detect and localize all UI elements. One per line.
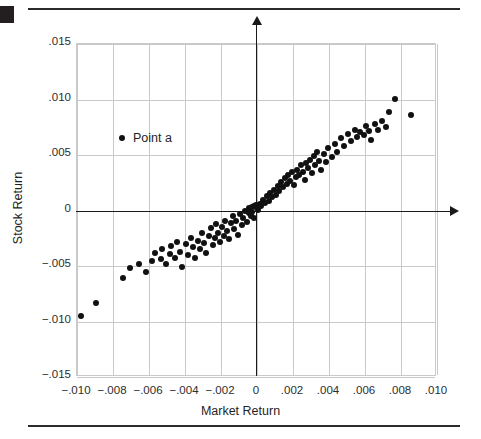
data-point bbox=[93, 300, 99, 306]
data-point bbox=[375, 127, 381, 133]
data-point bbox=[233, 218, 239, 224]
data-point bbox=[302, 177, 308, 183]
data-point bbox=[366, 128, 372, 134]
data-point bbox=[159, 246, 165, 252]
data-point bbox=[354, 134, 360, 140]
data-point bbox=[185, 252, 191, 258]
data-point bbox=[345, 131, 351, 137]
data-point bbox=[188, 235, 194, 241]
data-point bbox=[392, 96, 398, 102]
data-point bbox=[224, 228, 230, 234]
x-axis-title: Market Return bbox=[0, 404, 481, 418]
legend-marker-icon bbox=[119, 135, 125, 141]
data-point bbox=[408, 112, 414, 118]
scatter-chart-figure: .015.010.0050−.005−.010−.015 −.010−.008−… bbox=[0, 0, 481, 439]
data-point bbox=[291, 182, 297, 188]
data-point bbox=[334, 149, 340, 155]
y-axis-title: Stock Return bbox=[11, 128, 25, 288]
data-point bbox=[183, 241, 189, 247]
data-point bbox=[143, 269, 149, 275]
data-point bbox=[149, 258, 155, 264]
data-point bbox=[323, 159, 329, 165]
data-point bbox=[251, 215, 257, 221]
data-point bbox=[78, 313, 84, 319]
legend-label: Point a bbox=[133, 131, 172, 145]
data-point bbox=[341, 143, 347, 149]
data-point bbox=[316, 158, 322, 164]
data-point bbox=[338, 135, 344, 141]
data-point bbox=[217, 239, 223, 245]
data-point bbox=[199, 230, 205, 236]
data-point bbox=[177, 249, 183, 255]
data-point bbox=[163, 261, 169, 267]
data-point bbox=[332, 141, 338, 147]
data-point bbox=[368, 137, 374, 143]
data-point bbox=[314, 149, 320, 155]
chart-legend: Point a bbox=[119, 131, 172, 145]
data-point bbox=[309, 170, 315, 176]
data-point bbox=[179, 264, 185, 270]
data-point bbox=[329, 154, 335, 160]
data-point bbox=[318, 167, 324, 173]
data-point bbox=[120, 275, 126, 281]
data-point bbox=[203, 250, 209, 256]
data-point bbox=[226, 236, 232, 242]
data-point bbox=[383, 124, 389, 130]
data-point bbox=[136, 261, 142, 267]
data-points-layer bbox=[0, 0, 481, 439]
data-point bbox=[168, 243, 174, 249]
data-point bbox=[386, 109, 392, 115]
data-point bbox=[152, 250, 158, 256]
data-point bbox=[244, 219, 250, 225]
data-point bbox=[321, 151, 327, 157]
data-point bbox=[201, 240, 207, 246]
data-point bbox=[172, 255, 178, 261]
data-point bbox=[325, 145, 331, 151]
data-point bbox=[379, 118, 385, 124]
data-point bbox=[174, 239, 180, 245]
data-point bbox=[190, 244, 196, 250]
data-point bbox=[210, 242, 216, 248]
data-point bbox=[127, 265, 133, 271]
data-point bbox=[235, 232, 241, 238]
data-point bbox=[192, 255, 198, 261]
